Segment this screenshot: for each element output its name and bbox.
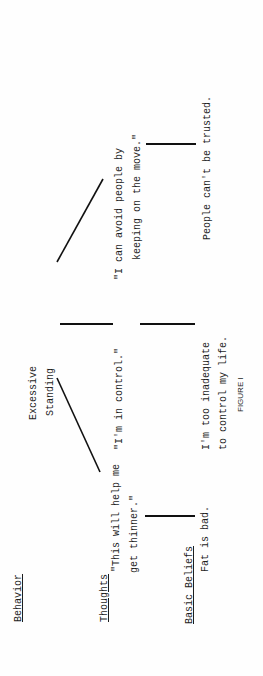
scanned-figure-page: Behavior Thoughts Basic Beliefs "This wi…: [0, 0, 263, 676]
branch-line-left: [57, 378, 100, 472]
branch-line-right: [57, 179, 103, 262]
branch-lines: [0, 0, 263, 676]
